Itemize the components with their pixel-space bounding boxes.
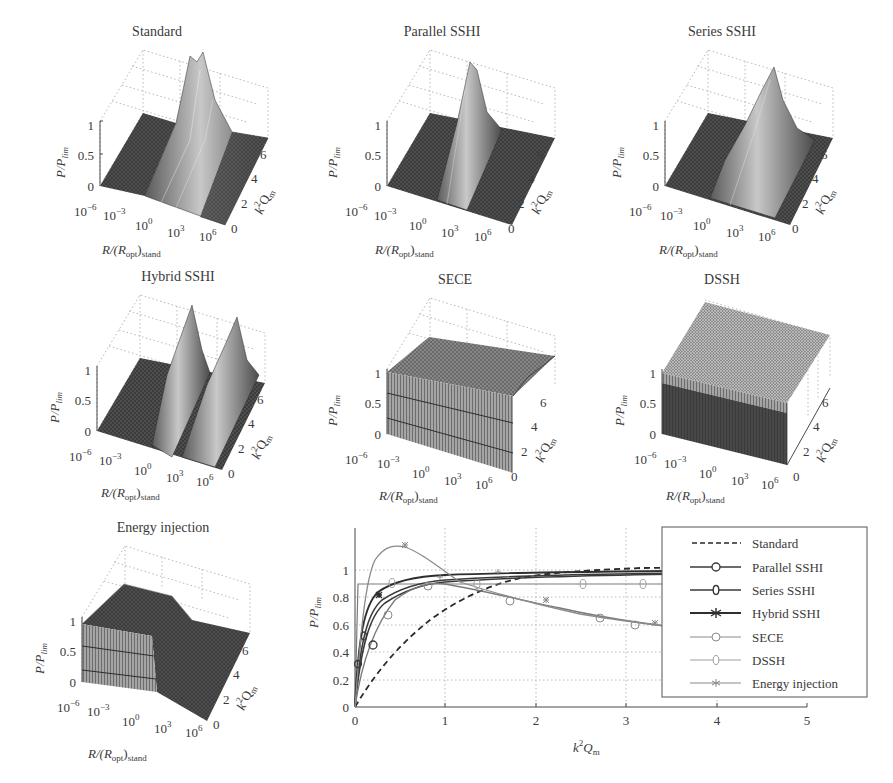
svg-text:6: 6 [260,147,267,162]
z-axis: 1 0.5 0 P/Plim [32,614,82,690]
svg-text:P/Plim: P/Plim [306,596,323,629]
svg-text:0: 0 [792,221,799,236]
svg-text:0.5: 0.5 [365,396,381,411]
panel-parallel-sshi: Parallel SSHI 1 0.5 0 P/Plim 10−6 10−3 1… [325,24,555,259]
svg-text:2: 2 [521,444,528,459]
svg-text:2: 2 [533,713,540,728]
svg-text:1: 1 [85,363,92,378]
svg-text:0.5: 0.5 [75,393,91,408]
svg-text:106: 106 [474,227,492,244]
svg-text:4: 4 [251,171,258,186]
svg-text:10−6: 10−6 [57,698,80,715]
svg-text:0: 0 [508,221,515,236]
svg-text:10−3: 10−3 [99,451,122,468]
svg-text:0.8: 0.8 [333,590,349,605]
svg-text:P/Plim: P/Plim [325,146,342,179]
svg-text:0.5: 0.5 [60,644,76,659]
svg-text:6: 6 [540,395,547,410]
panel-sece: SECE 1 0.5 0 P/Plim 10−6 10−3 100 103 10… [325,272,559,505]
svg-text:P/Plim: P/Plim [32,642,49,675]
svg-text:k2Qm: k2Qm [573,738,600,757]
panel-energy-injection: Energy injection 1 0.5 0 P/Plim 10−6 10−… [32,520,260,763]
legend: Standard Parallel SSHI Series SSHI Hybri… [662,527,867,697]
svg-text:10−6: 10−6 [634,450,657,467]
svg-text:Standard: Standard [752,536,799,551]
surface-sece [387,337,555,473]
svg-text:k2Qm: k2Qm [246,430,274,462]
y-axis: 0 2 4 6 k2Qm [793,395,840,484]
panel-title: DSSH [704,272,740,287]
svg-text:0: 0 [88,179,95,194]
svg-text:R/(Ropt)stand: R/(Ropt)stand [87,746,147,763]
line-plot: 0 0.2 0.4 0.6 0.8 1 P/Plim 0 1 2 3 4 5 k… [306,527,867,757]
svg-text:0: 0 [352,713,359,728]
svg-text:4: 4 [528,171,535,186]
svg-text:P/Plim: P/Plim [53,146,70,179]
svg-text:103: 103 [444,471,462,488]
svg-text:2: 2 [241,196,248,211]
svg-text:0: 0 [650,427,657,442]
panel-hybrid-sshi: Hybrid SSHI 1 0.5 0 P/Plim 10−6 10−3 100… [47,269,275,502]
svg-text:0.5: 0.5 [78,148,94,163]
svg-text:100: 100 [693,216,711,233]
svg-text:6: 6 [242,643,249,658]
svg-text:0: 0 [375,179,382,194]
svg-text:0.2: 0.2 [333,673,349,688]
z-axis: 1 0.5 0 P/Plim [47,363,97,439]
svg-text:P/Plim: P/Plim [47,391,64,424]
panel-title: SECE [438,272,472,287]
svg-text:R/(Ropt)stand: R/(Ropt)stand [374,242,434,259]
svg-text:100: 100 [122,712,140,729]
svg-text:k2Qm: k2Qm [526,185,554,217]
svg-text:P/Plim: P/Plim [325,394,342,427]
svg-text:R/(Ropt)stand: R/(Ropt)stand [100,485,160,502]
svg-text:10−6: 10−6 [69,447,92,464]
svg-text:4: 4 [233,667,240,682]
svg-text:R/(Ropt)stand: R/(Ropt)stand [378,488,438,505]
svg-text:k2Qm: k2Qm [530,433,558,465]
svg-text:103: 103 [441,223,459,240]
panel-title: Parallel SSHI [404,24,481,39]
panel-title: Series SSHI [688,24,756,39]
svg-text:0: 0 [653,179,660,194]
svg-text:0: 0 [213,717,220,732]
svg-text:1: 1 [375,366,382,381]
svg-text:k2Qm: k2Qm [231,681,259,713]
svg-text:P/Plim: P/Plim [612,394,629,427]
svg-text:4: 4 [531,419,538,434]
svg-text:0: 0 [228,466,235,481]
svg-text:6: 6 [821,147,828,162]
x-axis: 10−6 10−3 100 103 106 R/(Ropt)stand [634,450,779,505]
svg-text:1: 1 [375,118,382,133]
svg-text:100: 100 [699,464,717,481]
svg-text:0: 0 [511,469,518,484]
svg-text:6: 6 [822,395,829,410]
svg-text:DSSH: DSSH [752,653,785,668]
svg-text:10−6: 10−6 [345,450,368,467]
panel-standard: Standard 1 0.5 0 P/Plim 10−6 10−3 100 [53,24,278,259]
svg-text:106: 106 [761,475,779,492]
x-axis: 10−6 10−3 100 103 106 R/(Ropt)stand [57,698,203,763]
svg-text:0.5: 0.5 [643,148,659,163]
svg-text:R/(Ropt)stand: R/(Ropt)stand [665,488,725,505]
svg-text:103: 103 [166,468,184,485]
svg-text:k2Qm: k2Qm [249,185,277,217]
svg-text:R/(Ropt)stand: R/(Ropt)stand [101,242,161,259]
svg-text:Hybrid SSHI: Hybrid SSHI [752,606,820,621]
svg-text:k2Qm: k2Qm [810,185,838,217]
svg-text:2: 2 [803,444,810,459]
svg-text:103: 103 [154,719,172,736]
z-axis: 1 0.5 0 P/Plim [53,118,103,194]
svg-text:106: 106 [758,227,776,244]
svg-text:10−6: 10−6 [74,202,97,219]
svg-text:10−3: 10−3 [103,206,126,223]
svg-text:3: 3 [623,713,630,728]
x-ticks-2d: 0 1 2 3 4 5 k2Qm [352,713,811,757]
z-axis: 1 0.5 0 P/Plim [325,118,387,194]
panel-title: Hybrid SSHI [141,269,215,284]
y-ticks-2d: 0 0.2 0.4 0.6 0.8 1 P/Plim [306,563,350,715]
svg-text:10−3: 10−3 [87,702,110,719]
svg-text:0: 0 [85,424,92,439]
svg-text:106: 106 [199,227,217,244]
svg-text:1: 1 [70,614,77,629]
